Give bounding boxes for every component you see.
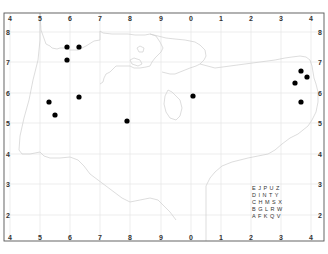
occurrence-point <box>76 94 81 99</box>
right-label: 2 <box>318 212 322 219</box>
right-label: 3 <box>318 181 322 188</box>
occurrence-point <box>52 112 57 117</box>
grid-letter-legend: E J P U ZD I N T YC H M S XB G L R WA F … <box>252 185 283 219</box>
bottom-label: 9 <box>159 234 163 241</box>
top-label: 0 <box>189 15 193 22</box>
left-label: 7 <box>6 59 10 66</box>
legend-row: B G L R W <box>252 206 283 212</box>
occurrence-point <box>292 80 297 85</box>
left-label: 2 <box>6 212 10 219</box>
bottom-label: 4 <box>8 234 12 241</box>
bottom-label: 7 <box>98 234 102 241</box>
top-label: 5 <box>38 15 42 22</box>
left-label: 5 <box>6 120 10 127</box>
top-label: 8 <box>128 15 132 22</box>
occurrence-point <box>46 99 51 104</box>
bottom-label: 4 <box>309 234 313 241</box>
bottom-label: 0 <box>189 234 193 241</box>
legend-row: C H M S X <box>252 199 282 205</box>
top-label: 3 <box>279 15 283 22</box>
bottom-label: 6 <box>68 234 72 241</box>
distribution-map: 45678901234 45678901234 8765432 8765432 … <box>0 0 328 254</box>
left-label: 4 <box>6 151 10 158</box>
left-label: 6 <box>6 90 10 97</box>
top-label: 9 <box>159 15 163 22</box>
bottom-label: 5 <box>38 234 42 241</box>
legend-row: A F K Q V <box>252 213 281 219</box>
legend-row: D I N T Y <box>252 192 279 198</box>
occurrence-point <box>190 93 195 98</box>
occurrence-point <box>304 74 309 79</box>
left-label: 8 <box>6 29 10 36</box>
occurrence-point <box>298 68 303 73</box>
top-label: 4 <box>8 15 12 22</box>
top-label: 1 <box>219 15 223 22</box>
right-label: 8 <box>318 29 322 36</box>
right-label: 4 <box>318 151 322 158</box>
right-label: 5 <box>318 120 322 127</box>
bottom-label: 3 <box>279 234 283 241</box>
bottom-label: 2 <box>249 234 253 241</box>
occurrence-point <box>124 118 129 123</box>
right-label: 6 <box>318 90 322 97</box>
occurrence-point <box>298 99 303 104</box>
occurrence-point <box>64 57 69 62</box>
top-label: 7 <box>98 15 102 22</box>
bottom-label: 1 <box>219 234 223 241</box>
left-label: 3 <box>6 181 10 188</box>
top-label: 6 <box>68 15 72 22</box>
top-label: 2 <box>249 15 253 22</box>
legend-row: E J P U Z <box>252 185 280 191</box>
occurrence-point <box>64 44 69 49</box>
occurrence-point <box>76 44 81 49</box>
right-label: 7 <box>318 59 322 66</box>
bottom-label: 8 <box>128 234 132 241</box>
top-label: 4 <box>309 15 313 22</box>
